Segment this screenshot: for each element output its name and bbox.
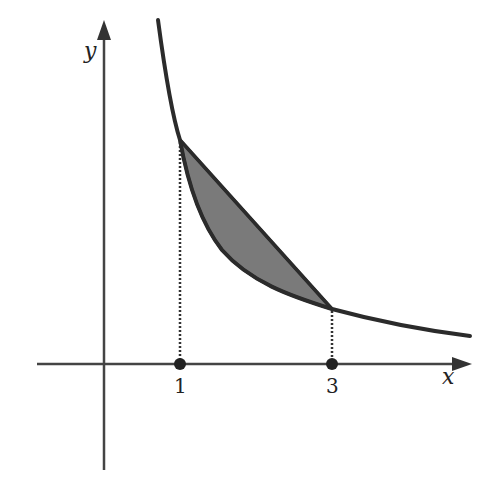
plot-canvas xyxy=(0,0,498,479)
point-x3 xyxy=(326,358,338,370)
x-axis-arrow-icon xyxy=(452,357,472,371)
tick-label-3: 3 xyxy=(326,374,339,398)
point-x1 xyxy=(174,358,186,370)
secant-line xyxy=(180,140,332,309)
figure: y x 1 3 xyxy=(0,0,498,479)
y-axis-arrow-icon xyxy=(97,20,111,40)
y-axis-label: y xyxy=(84,38,96,63)
tick-label-1: 1 xyxy=(174,374,187,398)
x-axis-label: x xyxy=(442,364,454,389)
